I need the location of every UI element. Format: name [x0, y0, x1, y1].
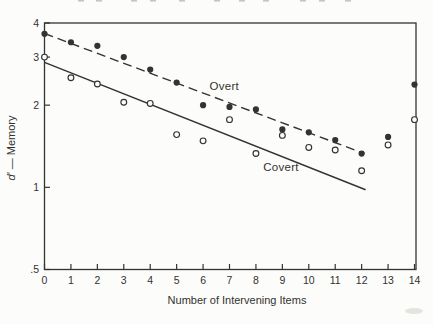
covert-point [412, 117, 418, 123]
x-tick-label: 14 [409, 274, 421, 286]
overt-point [200, 102, 206, 108]
overt-point [411, 81, 417, 87]
covert-line-label: Covert [263, 161, 299, 173]
x-tick-label: 6 [200, 274, 206, 286]
overt-point [121, 54, 127, 60]
y-axis-title-rest: — Memory [5, 115, 17, 172]
y-tick-label: .5 [30, 263, 39, 275]
y-tick-label: 1 [33, 181, 39, 193]
overt-point [94, 43, 100, 49]
covert-point [279, 132, 285, 138]
overt-point [41, 31, 47, 37]
cropped-text-fragment [179, 0, 185, 2]
covert-point [359, 168, 365, 174]
covert-point [68, 75, 74, 81]
covert-point [174, 132, 180, 138]
figure-page: 4321.501234567891011121314 Number of Int… [0, 0, 433, 324]
x-tick-label: 9 [279, 274, 285, 286]
overt-point [253, 106, 259, 112]
covert-point [121, 99, 127, 105]
overt-point [226, 104, 232, 110]
scan-smudge [405, 308, 423, 314]
x-tick-label: 2 [94, 274, 100, 286]
covert-point [332, 147, 338, 153]
y-axis-title: d′ — Memory [5, 115, 17, 181]
x-tick-label: 7 [227, 274, 233, 286]
x-tick-label: 10 [303, 274, 315, 286]
overt-point [279, 126, 285, 132]
overt-point [68, 39, 74, 45]
cropped-text-fragment [214, 0, 220, 2]
overt-point [147, 66, 153, 72]
covert-point [147, 101, 153, 107]
y-tick-label: 2 [33, 99, 39, 111]
x-tick-label: 5 [174, 274, 180, 286]
covert-point [306, 145, 312, 151]
x-tick-label: 1 [68, 274, 74, 286]
overt-line-label: Overt [209, 80, 239, 92]
covert-point [385, 142, 391, 148]
x-tick-label: 12 [356, 274, 368, 286]
cropped-text-fragment [239, 0, 245, 2]
x-tick-label: 11 [330, 274, 341, 286]
x-tick-label: 3 [121, 274, 127, 286]
overt-point [359, 150, 365, 156]
cropped-text-fragment [96, 0, 102, 2]
covert-point [200, 138, 206, 144]
cropped-text-fragment [78, 0, 84, 2]
cropped-text-fragment [345, 0, 351, 2]
cropped-text-fragment [263, 0, 269, 2]
covert-point [42, 54, 48, 60]
covert-trend-line [45, 62, 366, 189]
overt-point [385, 134, 391, 140]
x-tick-label: 0 [42, 274, 48, 286]
covert-point [253, 151, 259, 157]
cropped-text-fragment [150, 0, 156, 2]
cropped-text-fragment [300, 0, 306, 2]
cropped-text-fragment [319, 0, 325, 2]
chart-labels: Number of Intervening Items d′ — Memory … [5, 80, 307, 306]
overt-point [306, 129, 312, 135]
covert-point [94, 81, 100, 87]
covert-point [227, 117, 233, 123]
y-tick-label: 3 [33, 51, 39, 63]
overt-point [174, 79, 180, 85]
x-tick-label: 4 [147, 274, 153, 286]
y-tick-label: 4 [33, 17, 39, 29]
overt-point [332, 137, 338, 143]
cropped-text-fragment [131, 0, 137, 2]
memory-dprime-chart: 4321.501234567891011121314 Number of Int… [0, 0, 433, 324]
x-axis-title: Number of Intervening Items [168, 294, 307, 306]
x-tick-label: 13 [382, 274, 394, 286]
overt-trend-line [45, 34, 365, 154]
plot-frame [45, 23, 417, 270]
x-tick-label: 8 [253, 274, 259, 286]
